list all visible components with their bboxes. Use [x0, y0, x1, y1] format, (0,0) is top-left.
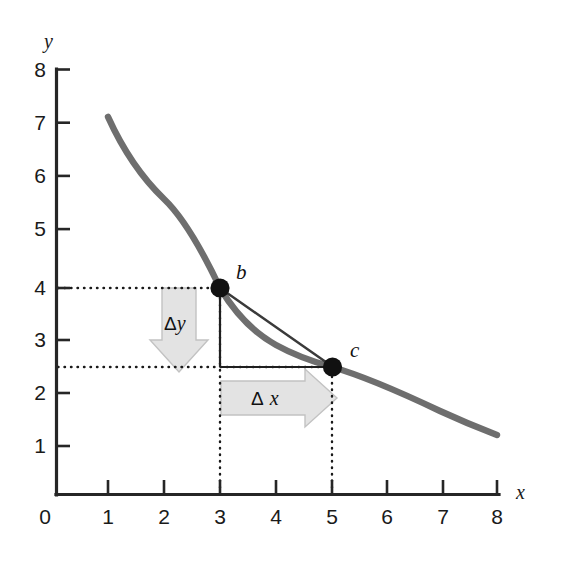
x-axis-ticks	[108, 480, 497, 494]
x-tick-label-5: 5	[319, 506, 345, 527]
delta-y-label: Δy	[164, 313, 186, 333]
data-point-b	[210, 278, 229, 297]
point-c-label: c	[350, 340, 359, 361]
y-tick-label-6: 6	[28, 165, 52, 186]
x-tick-label-6: 6	[374, 506, 400, 527]
x-tick-label-7: 7	[430, 506, 456, 527]
x-tick-label-4: 4	[263, 506, 289, 527]
x-tick-label-0: 0	[32, 506, 58, 527]
point-b-label: b	[236, 262, 247, 283]
delta-x-label: Δx	[251, 388, 279, 408]
y-tick-label-5: 5	[28, 218, 52, 239]
delta-y-symbol: Δ	[164, 313, 177, 334]
axis-lines	[56, 69, 499, 495]
chart-canvas	[0, 0, 561, 569]
x-tick-label-1: 1	[95, 506, 121, 527]
data-point-c	[323, 357, 342, 376]
y-tick-label-3: 3	[28, 329, 52, 350]
x-tick-label-8: 8	[484, 506, 510, 527]
delta-x-arrow	[221, 369, 337, 427]
y-tick-label-7: 7	[28, 112, 52, 133]
delta-x-variable: x	[270, 387, 279, 409]
x-tick-label-2: 2	[151, 506, 177, 527]
x-tick-label-3: 3	[207, 506, 233, 527]
delta-x-symbol: Δ	[251, 388, 264, 409]
slope-secant-figure: 8 7 6 5 4 3 2 1 0 1 2 3 4 5 6 7 8 y x b …	[0, 0, 561, 569]
y-tick-label-1: 1	[28, 435, 52, 456]
y-tick-label-2: 2	[28, 382, 52, 403]
secant-line	[220, 288, 333, 367]
y-axis-label: y	[44, 31, 53, 51]
y-tick-label-4: 4	[28, 277, 52, 298]
y-tick-label-8: 8	[28, 59, 52, 80]
delta-y-variable: y	[177, 312, 186, 334]
x-axis-label: x	[516, 482, 525, 502]
